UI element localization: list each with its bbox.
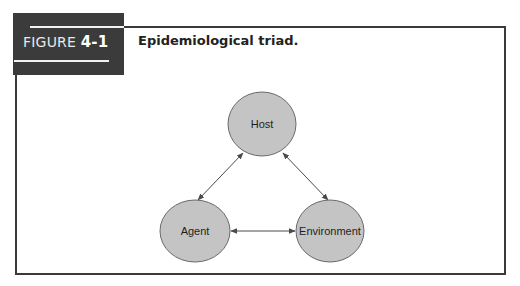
edge-host-environment — [283, 153, 328, 200]
node-agent: Agent — [160, 200, 230, 262]
node-host-label: Host — [251, 118, 274, 130]
node-environment-label: Environment — [299, 225, 361, 237]
node-environment: Environment — [296, 200, 364, 262]
node-host: Host — [228, 92, 296, 156]
triad-diagram: Host Agent Environment — [0, 0, 520, 286]
node-agent-label: Agent — [181, 225, 210, 237]
edge-host-agent — [198, 153, 243, 200]
